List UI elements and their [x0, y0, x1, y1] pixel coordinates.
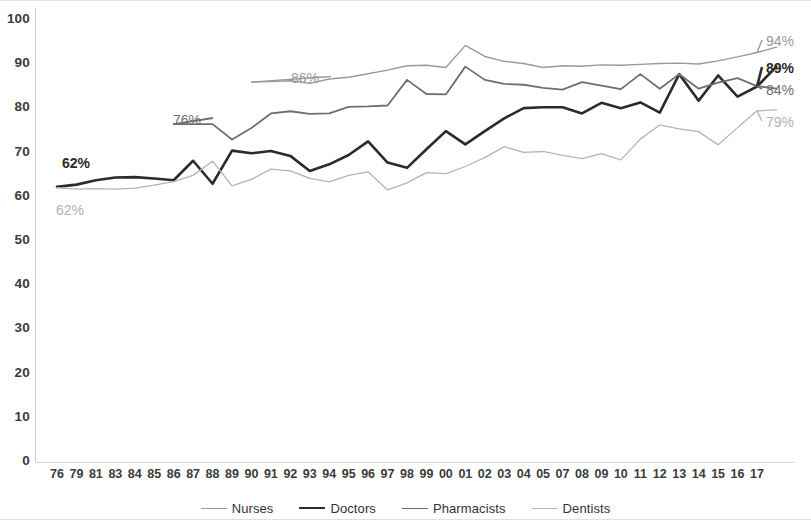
value-annotation: 62%: [56, 203, 84, 217]
x-axis-tick-00: 00: [439, 468, 453, 481]
x-axis-tick-04: 04: [517, 468, 531, 481]
x-axis-tick-88: 88: [206, 468, 220, 481]
x-axis-tick-03: 03: [497, 468, 511, 481]
x-axis-tick-93: 93: [303, 468, 317, 481]
value-annotation: 62%: [62, 156, 90, 170]
x-axis-tick-76: 76: [50, 468, 64, 481]
chart-legend: NursesDoctorsPharmacistsDentists: [0, 496, 811, 520]
x-axis-tick-16: 16: [731, 468, 745, 481]
x-axis-tick-09: 09: [594, 468, 608, 481]
x-axis-tick-95: 95: [342, 468, 356, 481]
x-axis-tick-83: 83: [108, 468, 122, 481]
x-axis-tick-08: 08: [575, 468, 589, 481]
x-axis-tick-90: 90: [244, 468, 258, 481]
x-axis-tick-94: 94: [322, 468, 336, 481]
legend-item-dentists[interactable]: Dentists: [532, 502, 611, 515]
legend-swatch-icon: [201, 508, 227, 509]
legend-item-pharmacists[interactable]: Pharmacists: [402, 502, 506, 515]
legend-swatch-icon: [299, 507, 325, 509]
x-axis-tick-17: 17: [750, 468, 764, 481]
x-axis-tick-97: 97: [381, 468, 395, 481]
value-annotation: 76%: [173, 113, 201, 127]
plot-area: [0, 0, 811, 525]
x-axis-tick-92: 92: [283, 468, 297, 481]
legend-item-doctors[interactable]: Doctors: [299, 502, 376, 515]
x-axis-tick-10: 10: [614, 468, 628, 481]
x-axis-tick-05: 05: [536, 468, 550, 481]
value-annotation: 86%: [291, 71, 319, 85]
legend-swatch-icon: [532, 508, 558, 509]
series-line-dentists: [57, 110, 776, 190]
series-line-pharmacists: [174, 67, 777, 140]
x-axis-tick-89: 89: [225, 468, 239, 481]
x-axis-tick-84: 84: [128, 468, 142, 481]
x-axis-tick-14: 14: [692, 468, 706, 481]
x-axis-tick-13: 13: [672, 468, 686, 481]
x-axis-tick-96: 96: [361, 468, 375, 481]
x-axis-tick-02: 02: [478, 468, 492, 481]
x-axis-tick-07: 07: [556, 468, 570, 481]
value-annotation: 94%: [766, 34, 794, 48]
x-axis-tick-12: 12: [653, 468, 667, 481]
value-annotation: 79%: [766, 115, 794, 129]
x-axis-tick-85: 85: [147, 468, 161, 481]
series-line-nurses: [251, 45, 776, 83]
x-axis-tick-86: 86: [167, 468, 181, 481]
x-axis-tick-01: 01: [458, 468, 472, 481]
x-axis-tick-81: 81: [89, 468, 103, 481]
x-axis-tick-91: 91: [264, 468, 278, 481]
end-leader-line-dentists: [757, 111, 762, 121]
legend-swatch-icon: [402, 508, 428, 509]
x-axis-tick-87: 87: [186, 468, 200, 481]
value-annotation: 84%: [766, 83, 794, 97]
legend-label: Pharmacists: [433, 502, 506, 515]
legend-label: Doctors: [330, 502, 376, 515]
x-axis-tick-labels: 7679818384858687888990919293949596979899…: [0, 468, 811, 490]
x-axis-tick-99: 99: [419, 468, 433, 481]
x-axis-tick-15: 15: [711, 468, 725, 481]
value-annotation: 89%: [766, 61, 794, 75]
x-axis-tick-79: 79: [69, 468, 83, 481]
legend-label: Dentists: [563, 502, 611, 515]
line-chart: 1009080706050403020100 86%76%62%62%94%89…: [0, 0, 811, 525]
legend-item-nurses[interactable]: Nurses: [201, 502, 274, 515]
x-axis-tick-11: 11: [634, 468, 647, 481]
x-axis-tick-98: 98: [400, 468, 414, 481]
legend-label: Nurses: [232, 502, 274, 515]
